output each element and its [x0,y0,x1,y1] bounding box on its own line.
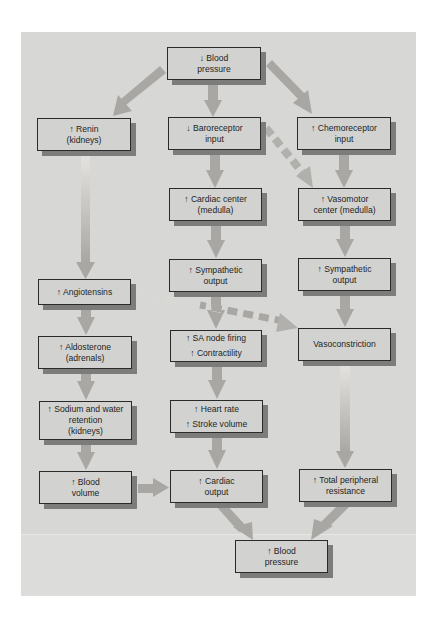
node-label: ↑ SA node firing [186,333,246,344]
node-label: (adrenals) [66,353,105,364]
arrow-bp-to-baroreceptor [204,80,222,117]
node-label: pressure [197,64,230,75]
node-label: ↑ Total peripheral [313,475,378,486]
node-blood-volume: ↑ Blood volume [39,471,132,504]
node-label: volume [72,488,100,499]
arrows-layer [0,0,434,626]
node-label: ↑ Cardiac [198,476,234,487]
node-label: ↑ Sodium and water [48,404,124,415]
node-label: output [204,276,228,287]
node-cardiac-center: ↑ Cardiac center (medulla) [169,188,262,221]
arrow-sympathetic-to-vasoconstriction [336,291,354,327]
node-label: resistance [326,486,365,497]
node-label: pressure [265,557,298,568]
arrow-baroreceptor-to-cardiac-center [206,150,224,188]
node-blood-pressure-increase: ↑ Blood pressure [235,540,328,573]
node-sympathetic-output-cardiac: ↑ Sympathetic output [169,259,262,292]
node-renin: ↑ Renin (kidneys) [37,118,131,151]
arrow-cardiac-output-to-bp [215,503,253,540]
arrow-aldosterone-to-sodium [77,369,95,400]
node-aldosterone: ↑ Aldosterone (adrenals) [38,336,132,369]
node-vasomotor-center: ↑ Vasomotor center (medulla) [298,188,391,221]
arrow-tpr-to-bp [311,503,349,540]
node-label: Vasoconstriction [313,339,375,350]
arrow-blood-volume-to-cardiac-output [138,478,169,497]
arrow-sodium-to-blood-volume [77,440,95,470]
node-heart-rate-stroke-volume: ↑ Heart rate ↑ Stroke volume [170,400,263,433]
node-label: ↑ Contractility [190,348,242,359]
arrow-bp-to-renin [113,66,166,116]
arrow-heart-rate-to-cardiac-output [208,433,226,469]
arrow-vasoconstriction-to-tpr [336,361,354,468]
node-cardiac-output: ↑ Cardiac output [170,470,263,503]
arrow-chemoreceptor-to-vasomotor [335,150,353,188]
node-label: ↑ Cardiac center [184,194,247,205]
arrow-bp-to-chemoreceptor [266,60,312,114]
node-blood-pressure-decrease: ↓ Blood pressure [167,47,261,80]
node-label: (kidneys) [67,135,102,146]
node-baroreceptor-input: ↓ Baroreceptor input [168,117,261,150]
node-label: ↑ Sympathetic [318,264,372,275]
node-sympathetic-output-vasomotor: ↑ Sympathetic output [298,258,391,291]
arrow-vasomotor-to-sympathetic [336,221,354,257]
node-label: ↑ Chemoreceptor [311,123,377,134]
node-label: ↑ Heart rate [194,404,239,415]
node-label: ↑ Vasomotor [321,194,369,205]
node-label: ↑ Sympathetic [189,265,243,276]
arrow-renin-to-angiotensins [76,151,95,279]
arrow-sa-node-to-heart-rate [208,362,226,399]
node-label: input [335,134,354,145]
arrow-cardiac-center-to-sympathetic [207,221,225,258]
node-label: ↓ Blood [200,53,229,64]
node-total-peripheral-resistance: ↑ Total peripheral resistance [299,469,392,502]
node-sodium-water-retention: ↑ Sodium and water retention (kidneys) [39,401,132,440]
node-chemoreceptor-input: ↑ Chemoreceptor input [297,117,391,150]
node-label: ↓ Baroreceptor [186,123,242,134]
node-sa-node-contractility: ↑ SA node firing ↑ Contractility [170,330,262,362]
arrow-angiotensins-to-aldosterone [77,305,95,335]
node-label: ↑ Aldosterone [59,342,111,353]
node-vasoconstriction: Vasoconstriction [298,328,391,361]
node-label: ↑ Blood [267,546,296,557]
node-label: output [333,275,357,286]
node-label: (kidneys) [68,426,103,437]
node-label: ↑ Stroke volume [186,419,248,430]
node-label: input [205,134,224,145]
node-label: ↑ Blood [71,477,100,488]
node-angiotensins: ↑ Angiotensins [38,279,131,305]
node-label: ↑ Renin [69,124,98,135]
node-label: center (medulla) [313,205,375,216]
node-label: (medulla) [198,205,234,216]
node-label: retention [69,415,102,426]
node-label: output [205,487,229,498]
node-label: ↑ Angiotensins [57,287,112,298]
